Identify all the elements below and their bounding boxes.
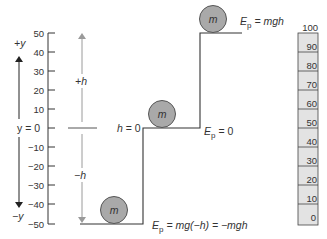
minus-h-label: −h bbox=[74, 169, 86, 181]
tick-label: −20 bbox=[28, 161, 44, 172]
positive-y-label: +y bbox=[14, 37, 26, 49]
tick-label: −30 bbox=[28, 180, 44, 191]
height-arrows: +h −h h = 0 bbox=[68, 36, 141, 220]
potential-energy-diagram: +y −y y = 0 50 40 30 20 10 −10 −20 −3 bbox=[0, 0, 327, 239]
ruler: 100 90 80 70 60 50 40 30 20 10 0 bbox=[298, 22, 318, 225]
ruler-label: 70 bbox=[306, 79, 317, 90]
tick-label: 30 bbox=[33, 66, 44, 77]
h-zero-label: h = 0 bbox=[117, 122, 141, 134]
tick-label: 50 bbox=[33, 28, 44, 39]
energy-label-top: Ep = mgh bbox=[240, 15, 284, 30]
energy-label-middle: Ep = 0 bbox=[204, 125, 233, 140]
mass-label: m bbox=[158, 108, 167, 120]
y-direction-arrows: +y −y y = 0 bbox=[12, 37, 40, 222]
ball-top: m bbox=[200, 6, 227, 33]
energy-label-bottom: Ep = mg(−h) = −mgh bbox=[152, 219, 248, 234]
ruler-label: 50 bbox=[306, 117, 317, 128]
tick-label: 20 bbox=[33, 85, 44, 96]
tick-label: −40 bbox=[28, 199, 44, 210]
ruler-label: 100 bbox=[302, 22, 318, 33]
plus-h-label: +h bbox=[75, 75, 87, 87]
negative-y-label: −y bbox=[12, 210, 24, 222]
ruler-label: 90 bbox=[306, 41, 317, 52]
tick-label: −50 bbox=[28, 219, 44, 230]
tick-label: −10 bbox=[28, 142, 44, 153]
mass-label: m bbox=[209, 13, 218, 25]
ruler-label: 60 bbox=[306, 98, 317, 109]
ruler-label: 40 bbox=[306, 136, 317, 147]
ruler-label: 10 bbox=[306, 193, 317, 204]
tick-label: 10 bbox=[33, 104, 44, 115]
axis-ticks bbox=[48, 33, 55, 224]
ruler-label: 0 bbox=[311, 212, 316, 223]
mass-label: m bbox=[110, 204, 119, 216]
tick-label: 40 bbox=[33, 47, 44, 58]
ball-middle: m bbox=[149, 101, 176, 128]
ruler-label: 80 bbox=[306, 60, 317, 71]
y-zero-label: y = 0 bbox=[17, 122, 40, 134]
ball-bottom: m bbox=[101, 197, 128, 224]
ruler-label: 30 bbox=[306, 155, 317, 166]
ruler-label: 20 bbox=[306, 174, 317, 185]
